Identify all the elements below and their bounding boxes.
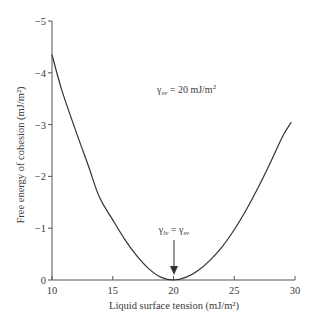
y-tick-label: −3 — [35, 120, 46, 131]
y-tick-label: 0 — [41, 275, 46, 286]
x-axis-ticks: 1015202530 — [47, 276, 301, 296]
annotation-superscript: 2 — [213, 83, 217, 91]
y-tick-label: −5 — [35, 16, 46, 27]
y-tick-label: −2 — [35, 171, 46, 182]
annotation-text: = 20 mJ/m — [167, 84, 213, 95]
x-axis-label: Liquid surface tension (mJ/m²) — [109, 300, 239, 312]
y-axis-ticks: 0−1−2−3−4−5 — [35, 16, 52, 286]
x-tick-label: 30 — [290, 285, 301, 296]
annotation-equals: = — [168, 224, 179, 235]
y-axis-label: Free energy of cohesion (mJ/m²) — [15, 86, 27, 224]
y-tick-label: −4 — [35, 68, 47, 79]
annotation-minimum: γlv = γsv — [158, 224, 190, 237]
x-tick-label: 15 — [108, 285, 119, 296]
annotation-subscript-sv: sv — [183, 229, 190, 237]
annotation-gamma-sv: γsv = 20 mJ/m2 — [156, 83, 217, 97]
chart: 0−1−2−3−4−5 1015202530 Free energy of co… — [0, 0, 316, 325]
x-tick-label: 20 — [168, 285, 179, 296]
x-tick-label: 10 — [47, 285, 58, 296]
arrow-head-icon — [170, 266, 178, 275]
y-tick-label: −1 — [35, 223, 46, 234]
x-tick-label: 25 — [229, 285, 240, 296]
